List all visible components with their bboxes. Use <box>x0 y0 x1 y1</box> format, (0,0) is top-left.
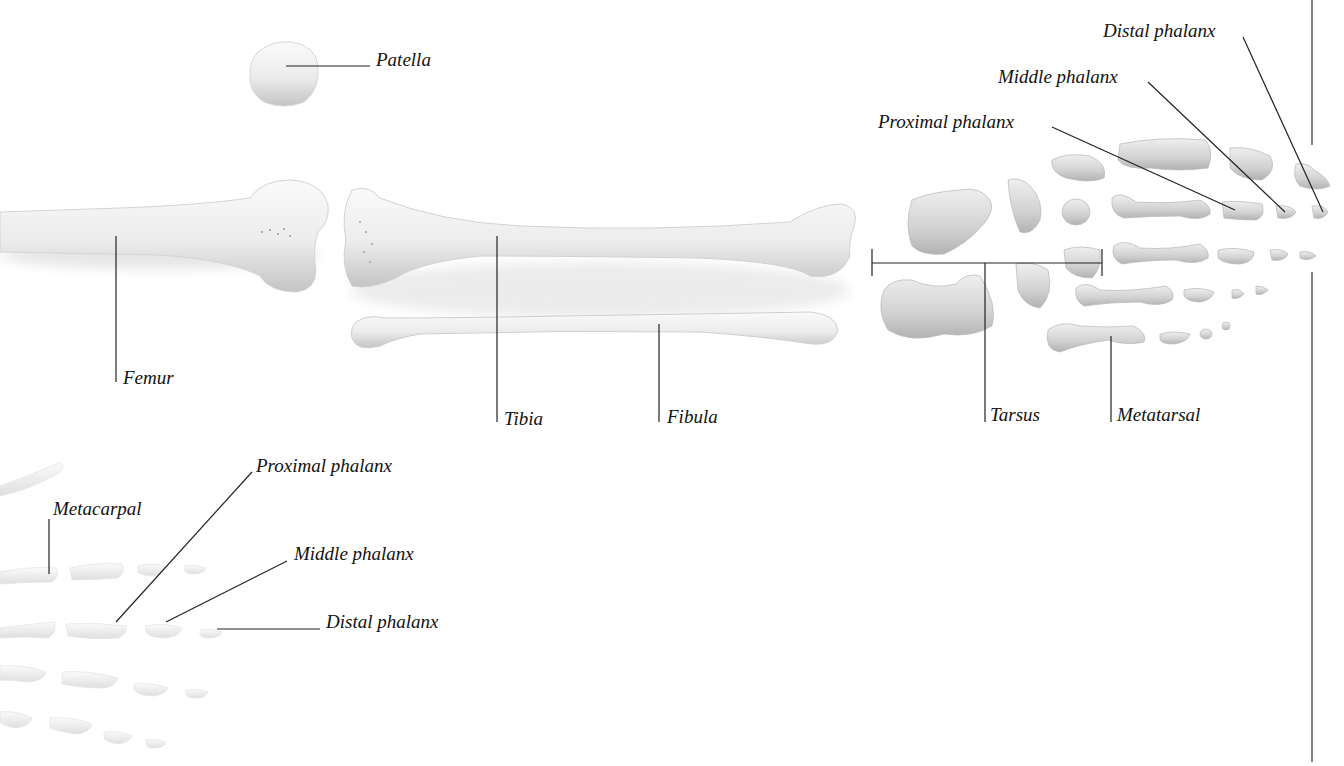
label-tarsus: Tarsus <box>990 405 1040 424</box>
bone-diagram-canvas <box>0 0 1344 766</box>
label-patella: Patella <box>376 50 431 69</box>
label-foot-middle-phalanx: Middle phalanx <box>998 67 1118 86</box>
patella-bone <box>250 42 318 106</box>
label-fibula: Fibula <box>667 407 718 426</box>
label-hand-distal-phalanx: Distal phalanx <box>326 612 438 631</box>
fibula-bone <box>352 312 839 348</box>
label-femur: Femur <box>123 368 174 387</box>
label-foot-distal-phalanx: Distal phalanx <box>1103 21 1215 40</box>
label-hand-proximal-phalanx: Proximal phalanx <box>256 456 392 475</box>
hand-proximal-phalanx-leader <box>116 472 252 622</box>
foot-distal-phalanx-leader <box>1243 37 1323 212</box>
tibia-bone <box>344 188 856 318</box>
label-hand-middle-phalanx: Middle phalanx <box>294 544 414 563</box>
femur-bone <box>0 180 328 292</box>
label-foot-proximal-phalanx: Proximal phalanx <box>878 112 1014 131</box>
foot-bones <box>881 139 1330 352</box>
label-metacarpal: Metacarpal <box>53 499 142 518</box>
label-metatarsal: Metatarsal <box>1117 405 1200 424</box>
label-tibia: Tibia <box>504 409 543 428</box>
